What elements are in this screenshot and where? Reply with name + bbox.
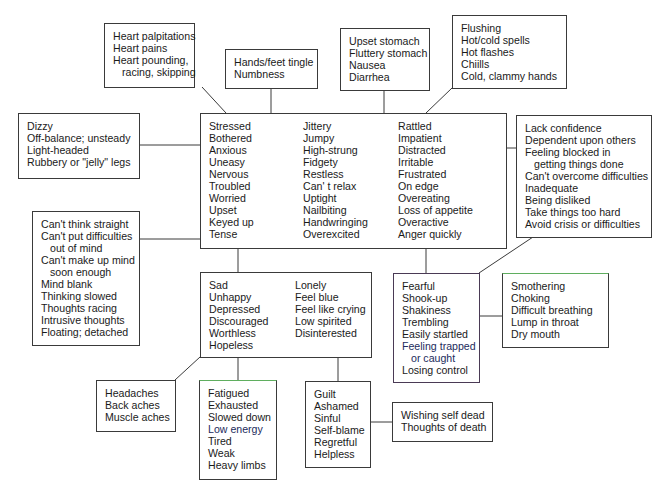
symptom-item: Bothered xyxy=(209,132,303,144)
tingle-symptoms-box: Hands/feet tingle Numbness xyxy=(225,49,318,89)
central-column-2: Jittery Jumpy High-strung Fidgety Restle… xyxy=(303,120,398,240)
symptom-item: Light-headed xyxy=(27,144,133,156)
symptom-item: Avoid crisis or difficulties xyxy=(525,218,645,230)
suicidal-thoughts-box: Wishing self dead Thoughts of death xyxy=(392,402,493,442)
thinking-symptoms-box: Can't think straight Can't put difficult… xyxy=(32,211,140,346)
symptom-item: Tired xyxy=(208,435,270,447)
symptom-item: Fatigued xyxy=(208,387,270,399)
symptom-item: Upset xyxy=(209,204,303,216)
symptom-item: Fidgety xyxy=(303,156,398,168)
symptom-item: Heart pounding, xyxy=(113,54,188,66)
aches-symptoms-box: Headaches Back aches Muscle aches xyxy=(96,380,176,432)
symptom-item: Tense xyxy=(209,228,303,240)
sad-column-2: Lonely Feel blue Feel like crying Low sp… xyxy=(295,279,367,351)
symptom-item: Frustrated xyxy=(398,168,498,180)
symptom-item: Discouraged xyxy=(209,315,295,327)
sad-symptoms-box: Sad Unhappy Depressed Discouraged Worthl… xyxy=(200,272,372,358)
symptom-item: Loss of appetite xyxy=(398,204,498,216)
symptom-item: Heart pains xyxy=(113,42,188,54)
symptom-item: Intrusive thoughts xyxy=(41,314,133,326)
symptom-item: Worried xyxy=(209,192,303,204)
central-column-1: Stressed Bothered Anxious Uneasy Nervous… xyxy=(209,120,303,240)
connector-heart-central xyxy=(202,87,226,113)
symptom-item: Impatient xyxy=(398,132,498,144)
sad-column-1: Sad Unhappy Depressed Discouraged Worthl… xyxy=(209,279,295,351)
symptom-item: Anxious xyxy=(209,144,303,156)
symptom-item: Hot/cold spells xyxy=(461,34,560,46)
symptom-item: Keyed up xyxy=(209,216,303,228)
symptom-item: Fluttery stomach xyxy=(349,47,423,59)
symptom-item: Low energy xyxy=(208,423,270,435)
symptom-item: Nausea xyxy=(349,59,423,71)
symptom-item: Depressed xyxy=(209,303,295,315)
symptom-item: Flushing xyxy=(461,22,560,34)
symptom-item: Headaches xyxy=(105,387,169,399)
symptom-item: Jittery xyxy=(303,120,398,132)
symptom-item: Guilt xyxy=(314,388,364,400)
fatigue-symptoms-box: Fatigued Exhausted Slowed down Low energ… xyxy=(199,380,277,480)
symptom-item: racing, skipping xyxy=(113,66,188,78)
symptom-item: Overexcited xyxy=(303,228,398,240)
symptom-item: Dizzy xyxy=(27,120,133,132)
symptom-item: Mind blank xyxy=(41,278,133,290)
symptom-item: Muscle aches xyxy=(105,411,169,423)
symptom-item: Thoughts racing xyxy=(41,302,133,314)
symptom-item: Disinterested xyxy=(295,327,367,339)
heart-symptoms-box: Heart palpitations Heart pains Heart pou… xyxy=(104,23,195,88)
confidence-symptoms-box: Lack confidence Dependent upon others Fe… xyxy=(516,115,652,238)
symptom-item: Hot flashes xyxy=(461,46,560,58)
symptom-item: Shook-up xyxy=(402,292,473,304)
symptom-item: Sad xyxy=(209,279,295,291)
symptom-item: Uneasy xyxy=(209,156,303,168)
symptom-item: Uptight xyxy=(303,192,398,204)
symptom-item: Dependent upon others xyxy=(525,134,645,146)
symptom-item: Sinful xyxy=(314,412,364,424)
symptom-item: Slowed down xyxy=(208,411,270,423)
guilt-symptoms-box: Guilt Ashamed Sinful Self-blame Regretfu… xyxy=(305,381,371,468)
symptom-item: Numbness xyxy=(234,68,311,80)
symptom-item: Can't make up mind xyxy=(41,254,133,266)
connector-sad-aches xyxy=(175,357,200,380)
symptom-item: Jumpy xyxy=(303,132,398,144)
symptom-item: Restless xyxy=(303,168,398,180)
symptom-item: Being disliked xyxy=(525,194,645,206)
symptom-item: Trembling xyxy=(402,316,473,328)
symptom-item: Difficult breathing xyxy=(511,304,602,316)
symptom-item: Thoughts of death xyxy=(401,421,486,433)
symptom-item: Chiills xyxy=(461,58,560,70)
symptom-item: Feel like crying xyxy=(295,303,367,315)
symptom-item: Smothering xyxy=(511,280,602,292)
symptom-item: or caught xyxy=(402,352,473,364)
symptom-item: Cold, clammy hands xyxy=(461,70,560,82)
symptom-item: Feeling blocked in xyxy=(525,146,645,158)
symptom-item: Shakiness xyxy=(402,304,473,316)
symptom-item: Distracted xyxy=(398,144,498,156)
symptom-item: Wishing self dead xyxy=(401,409,486,421)
symptom-item: Losing control xyxy=(402,364,473,376)
symptom-item: Feel blue xyxy=(295,291,367,303)
symptom-item: Nailbiting xyxy=(303,204,398,216)
symptom-item: Worthless xyxy=(209,327,295,339)
symptom-item: Feeling trapped xyxy=(402,340,473,352)
symptom-item: Upset stomach xyxy=(349,35,423,47)
symptom-item: Irritable xyxy=(398,156,498,168)
symptom-item: Rattled xyxy=(398,120,498,132)
breathing-symptoms-box: Smothering Choking Difficult breathing L… xyxy=(502,273,609,348)
symptom-item: Can't put difficulties xyxy=(41,230,133,242)
fearful-symptoms-box: Fearful Shook-up Shakiness Trembling Eas… xyxy=(393,273,480,383)
connector-flushing-central xyxy=(426,88,452,113)
symptom-item: Weak xyxy=(208,447,270,459)
symptom-item: Overeating xyxy=(398,192,498,204)
symptom-item: Helpless xyxy=(314,448,364,460)
symptom-item: Diarrhea xyxy=(349,71,423,83)
symptom-item: Hands/feet tingle xyxy=(234,56,311,68)
symptom-item: Stressed xyxy=(209,120,303,132)
symptom-item: Ashamed xyxy=(314,400,364,412)
symptom-item: out of mind xyxy=(41,242,133,254)
symptom-item: Handwringing xyxy=(303,216,398,228)
symptom-item: High-strung xyxy=(303,144,398,156)
symptom-item: soon enough xyxy=(41,266,133,278)
symptom-item: Inadequate xyxy=(525,182,645,194)
symptom-item: Heavy limbs xyxy=(208,459,270,471)
symptom-item: On edge xyxy=(398,180,498,192)
